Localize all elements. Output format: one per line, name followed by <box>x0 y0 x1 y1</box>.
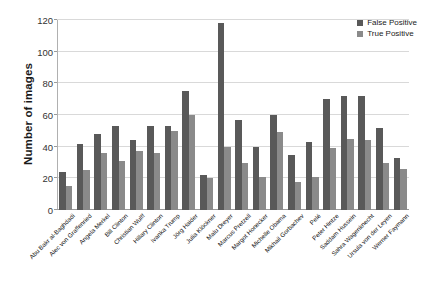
bar-group <box>59 20 72 210</box>
bar <box>330 148 337 210</box>
bar-group <box>341 20 354 210</box>
bar-group <box>77 20 90 210</box>
bar <box>189 115 196 210</box>
bar <box>347 139 354 210</box>
y-axis-title: Number of images <box>22 34 34 194</box>
y-tick-label: 60 <box>42 110 53 121</box>
bar-group <box>323 20 336 210</box>
plot-area: 020406080100120 <box>57 20 409 210</box>
legend-swatch <box>357 20 363 26</box>
bar-group <box>235 20 248 210</box>
bar-group <box>358 20 371 210</box>
bar <box>83 170 90 210</box>
bar <box>66 186 73 210</box>
bar-group <box>130 20 143 210</box>
y-tick-label: 20 <box>42 173 53 184</box>
bar <box>383 163 390 211</box>
bar-group <box>94 20 107 210</box>
chart-legend: False PositiveTrue Positive <box>354 16 420 40</box>
bar-group <box>394 20 407 210</box>
bar <box>154 153 161 210</box>
legend-label: False Positive <box>367 18 417 27</box>
bar-group <box>147 20 160 210</box>
bar-group <box>200 20 213 210</box>
legend-item: True Positive <box>357 29 417 38</box>
bar-series-container <box>57 20 409 210</box>
bar-group <box>218 20 231 210</box>
bar <box>207 178 214 210</box>
bar-group <box>376 20 389 210</box>
bar-group <box>253 20 266 210</box>
bar <box>101 153 108 210</box>
bar <box>259 177 266 210</box>
bar-chart: Number of images 020406080100120 Abu Bak… <box>0 0 426 292</box>
y-tick-label: 80 <box>42 78 53 89</box>
bar <box>277 132 284 210</box>
legend-label: True Positive <box>367 29 413 38</box>
y-tick-label: 0 <box>48 205 53 216</box>
y-tick-label: 40 <box>42 141 53 152</box>
x-axis-labels: Abu Bakr al-BaghdadiAlec von Graffenried… <box>57 212 409 292</box>
bar <box>119 161 126 210</box>
legend-item: False Positive <box>357 18 417 27</box>
bar-group <box>182 20 195 210</box>
bar-group <box>112 20 125 210</box>
bar <box>224 147 231 210</box>
bar-group <box>270 20 283 210</box>
bar <box>242 163 249 211</box>
bar-group <box>288 20 301 210</box>
bar-group <box>165 20 178 210</box>
bar <box>400 169 407 210</box>
y-tick-label: 120 <box>37 15 53 26</box>
bar <box>312 177 319 210</box>
legend-swatch <box>357 31 363 37</box>
bar <box>365 140 372 210</box>
x-tick-label: Pelé <box>308 212 322 226</box>
bar <box>136 151 143 210</box>
bar-group <box>306 20 319 210</box>
bar <box>295 182 302 211</box>
bar <box>171 131 178 210</box>
y-tick-label: 100 <box>37 46 53 57</box>
